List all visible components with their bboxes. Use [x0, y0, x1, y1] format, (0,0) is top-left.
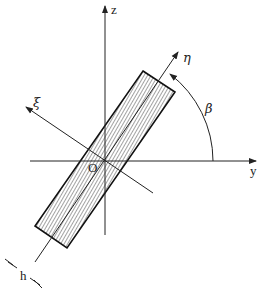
eta-axis: [35, 52, 178, 262]
origin-label: O: [88, 160, 97, 175]
z-axis-label: z: [111, 2, 117, 17]
zeta-axis-label: ξ: [33, 95, 41, 110]
thickness-label: h: [20, 268, 27, 283]
eta-axis-label: η: [183, 50, 191, 65]
y-axis-label: y: [250, 163, 257, 178]
beam-cross-section-diagram: z y η ξ O β h: [0, 0, 261, 295]
beta-angle-label: β: [204, 101, 213, 116]
beta-angle-arc: [170, 74, 213, 161]
